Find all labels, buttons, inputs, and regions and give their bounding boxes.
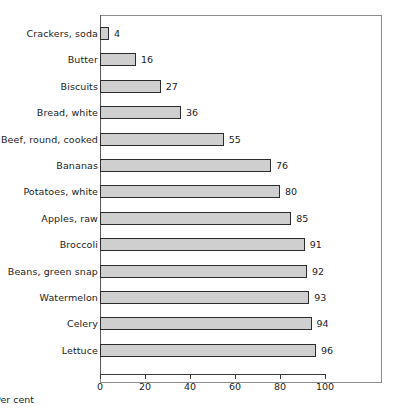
bar-row: Lettuce96 — [0, 339, 397, 365]
bar-value-label: 93 — [314, 291, 326, 304]
category-label: Lettuce — [62, 344, 98, 357]
bar-value-label: 27 — [166, 80, 178, 93]
x-tick-mark — [190, 375, 191, 379]
bar — [100, 265, 307, 278]
bar-row: Broccoli91 — [0, 233, 397, 259]
x-tick-mark — [235, 375, 236, 379]
category-label: Watermelon — [40, 291, 99, 304]
x-tick-label: 40 — [170, 381, 210, 393]
bar-value-label: 94 — [317, 317, 329, 330]
x-tick-label: 100 — [305, 381, 345, 393]
bar — [100, 317, 312, 330]
bar-row: Bananas76 — [0, 154, 397, 180]
bar-row: Beans, green snap92 — [0, 260, 397, 286]
bar — [100, 133, 224, 146]
bar-row: Biscuits27 — [0, 75, 397, 101]
bar-value-label: 91 — [310, 238, 322, 251]
bar — [100, 27, 109, 40]
value-axis-line — [100, 374, 326, 375]
category-label: Bread, white — [37, 106, 98, 119]
bar-row: Butter16 — [0, 48, 397, 74]
bar — [100, 291, 309, 304]
bar-value-label: 80 — [285, 185, 297, 198]
bar-row: Beef, round, cooked55 — [0, 128, 397, 154]
category-label: Beef, round, cooked — [1, 133, 98, 146]
category-label: Apples, raw — [41, 212, 98, 225]
bar-chart: Crackers, soda4Butter16Biscuits27Bread, … — [0, 0, 397, 415]
bar — [100, 344, 316, 357]
x-tick-label: 80 — [260, 381, 300, 393]
category-label: Crackers, soda — [27, 27, 99, 40]
x-axis-title: Per cent — [0, 394, 397, 405]
x-tick-mark — [325, 375, 326, 379]
category-label: Beans, green snap — [8, 265, 98, 278]
x-tick-label: 20 — [125, 381, 165, 393]
bar — [100, 212, 291, 225]
category-label: Celery — [67, 317, 98, 330]
x-axis-title-text: Per cent — [0, 394, 34, 405]
bar-row: Bread, white36 — [0, 101, 397, 127]
bar-row: Watermelon93 — [0, 286, 397, 312]
bar-value-label: 76 — [276, 159, 288, 172]
x-tick-mark — [100, 375, 101, 379]
bar-value-label: 16 — [141, 53, 153, 66]
x-tick-mark — [280, 375, 281, 379]
category-label: Bananas — [56, 159, 98, 172]
bar — [100, 106, 181, 119]
bar-row: Crackers, soda4 — [0, 22, 397, 48]
bar — [100, 238, 305, 251]
bar-value-label: 55 — [229, 133, 241, 146]
bar — [100, 185, 280, 198]
bar-value-label: 92 — [312, 265, 324, 278]
bar-row: Celery94 — [0, 312, 397, 338]
bar-row: Apples, raw85 — [0, 207, 397, 233]
x-tick-mark — [145, 375, 146, 379]
bar — [100, 53, 136, 66]
bar-row: Potatoes, white80 — [0, 180, 397, 206]
category-label: Potatoes, white — [23, 185, 98, 198]
category-label: Biscuits — [61, 80, 98, 93]
x-tick-label: 60 — [215, 381, 255, 393]
category-label: Broccoli — [60, 238, 98, 251]
bar-value-label: 96 — [321, 344, 333, 357]
bar — [100, 159, 271, 172]
x-tick-label: 0 — [80, 381, 120, 393]
bar-value-label: 36 — [186, 106, 198, 119]
bar-value-label: 4 — [114, 27, 120, 40]
bar — [100, 80, 161, 93]
category-label: Butter — [68, 53, 98, 66]
bar-value-label: 85 — [296, 212, 308, 225]
